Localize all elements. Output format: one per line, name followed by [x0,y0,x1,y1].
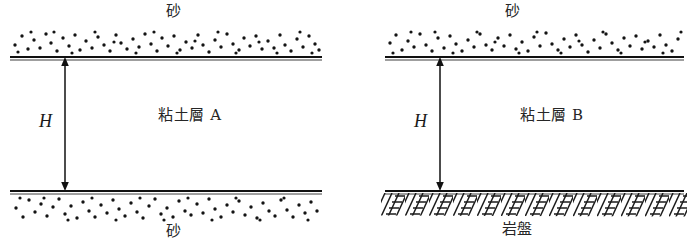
top-boundary-line-right [385,56,684,58]
panel-right-clay-b: 砂 [347,0,694,251]
bottom-sand-label-left: 砂 [0,224,347,239]
diagram-figure: 砂 [0,0,694,251]
bottom-sand-layer-left [10,195,322,222]
bottom-boundary-line-left [10,190,322,192]
top-sand-label-right: 砂 [347,4,677,19]
top-sand-label-left: 砂 [0,4,347,19]
clay-layer-label-left: 粘土層 A [110,108,270,123]
clay-layer-label-right: 粘土層 B [472,108,632,123]
panel-left-clay-a: 砂 [0,0,347,251]
thickness-label-left: H [39,112,52,130]
top-sand-layer-right [385,29,684,56]
top-boundary-line-left [10,56,322,58]
bedrock-hatch-layer-right [381,193,687,221]
thickness-dimension-arrow-left [58,57,72,191]
bedrock-label-right: 岩盤 [347,222,687,237]
thickness-dimension-arrow-right [433,57,447,191]
top-sand-layer-left [10,29,322,56]
bottom-boundary-line-right [385,190,684,192]
thickness-label-right: H [414,112,427,130]
